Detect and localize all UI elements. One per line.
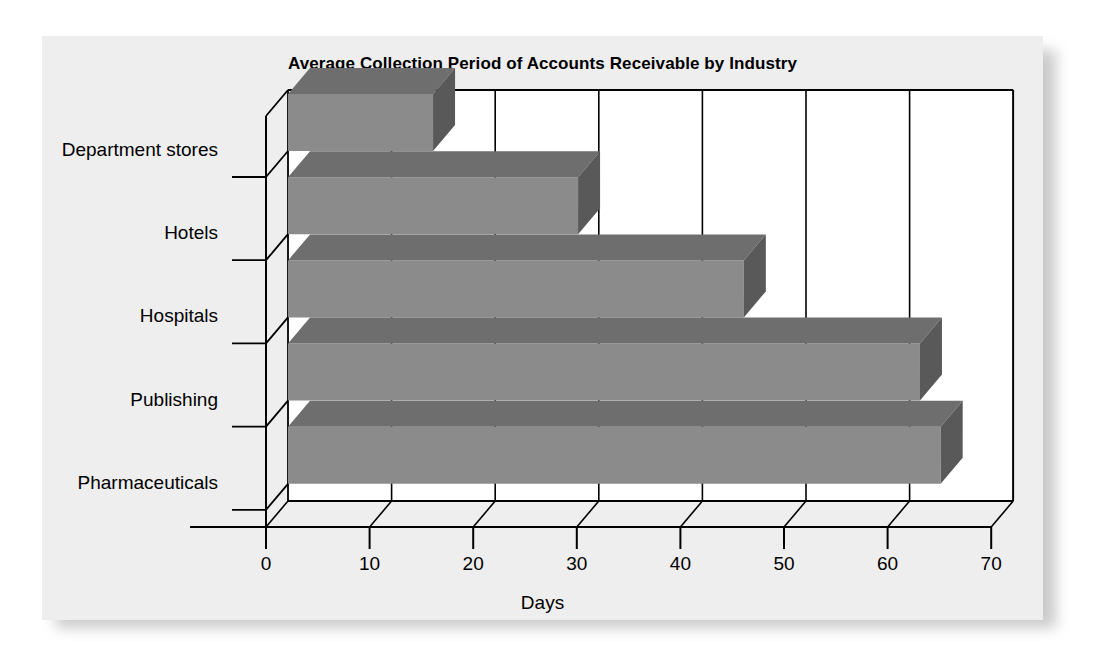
- x-tick-label: 0: [236, 553, 296, 575]
- floor-surface: [266, 501, 1013, 527]
- bar-item: [288, 234, 766, 317]
- category-tick-connector: [266, 401, 288, 427]
- chart-panel: Average Collection Period of Accounts Re…: [42, 36, 1043, 620]
- x-tick-label: 10: [340, 553, 400, 575]
- chart-plot-area: [42, 36, 1043, 620]
- category-label: Department stores: [62, 139, 218, 161]
- bar-top-face: [288, 401, 963, 427]
- category-label: Publishing: [130, 389, 218, 411]
- bar-item: [288, 401, 963, 484]
- x-axis-title: Days: [42, 592, 1043, 614]
- x-tick-label: 70: [961, 553, 1021, 575]
- x-tick-label: 30: [547, 553, 607, 575]
- bar-front-face: [288, 260, 744, 317]
- bar-top-face: [288, 151, 600, 177]
- x-tick-label: 40: [650, 553, 710, 575]
- category-label: Hotels: [164, 222, 218, 244]
- x-tick-label: 60: [858, 553, 918, 575]
- category-label: Pharmaceuticals: [78, 472, 218, 494]
- category-tick-connector: [266, 151, 288, 177]
- bar-top-face: [288, 234, 766, 260]
- x-tick-label: 50: [754, 553, 814, 575]
- axis-depth-connector: [266, 90, 288, 116]
- category-tick-connector: [266, 317, 288, 343]
- category-label: Hospitals: [140, 305, 218, 327]
- bar-front-face: [288, 94, 433, 151]
- bar-front-face: [288, 427, 941, 484]
- page-root: Average Collection Period of Accounts Re…: [0, 0, 1105, 665]
- x-tick-label: 20: [443, 553, 503, 575]
- bar-top-face: [288, 318, 942, 344]
- bar-front-face: [288, 177, 578, 234]
- bar-front-face: [288, 344, 920, 401]
- bar-item: [288, 151, 600, 234]
- bar-item: [288, 68, 455, 151]
- floor-plane: [266, 501, 1013, 527]
- bar-item: [288, 318, 942, 401]
- category-tick-connector: [266, 234, 288, 260]
- bar-top-face: [288, 68, 455, 94]
